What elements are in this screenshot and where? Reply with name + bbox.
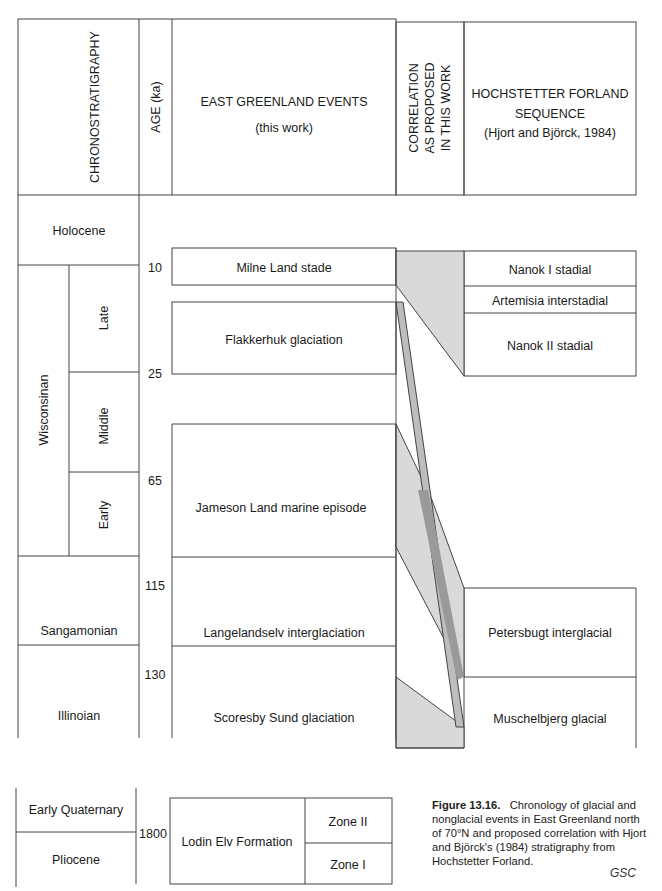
header-events-title: EAST GREENLAND EVENTS <box>200 95 367 109</box>
label-pliocene: Pliocene <box>52 853 100 867</box>
figure-caption: Figure 13.16. Chronology of glacial and … <box>432 798 648 868</box>
hochstetter-nanok1: Nanok I stadial <box>509 263 592 277</box>
label-middle: Middle <box>97 408 111 445</box>
hochstetter-artemisia: Artemisia interstadial <box>492 294 608 308</box>
event-flakkerhuk: Flakkerhuk glaciation <box>225 333 342 347</box>
hochstetter-petersbugt: Petersbugt interglacial <box>488 626 612 640</box>
header-chronostratigraphy: CHRONOSTRATIGRAPHY <box>88 30 102 183</box>
correlation-shading <box>396 251 464 748</box>
label-wisconsinan: Wisconsinan <box>37 375 51 446</box>
header-age: AGE (ka) <box>149 81 163 132</box>
credit-gsc: GSC <box>610 866 636 880</box>
header-events-subtitle: (this work) <box>255 121 313 135</box>
label-illinoian: Illinoian <box>58 709 100 723</box>
age-1800: 1800 <box>139 827 167 841</box>
age-65: 65 <box>148 474 162 488</box>
header-hochstetter-3: (Hjort and Björck, 1984) <box>484 126 616 140</box>
age-10: 10 <box>148 261 162 275</box>
event-jameson: Jameson Land marine episode <box>196 501 367 515</box>
event-zone2: Zone II <box>329 815 368 829</box>
header-correlation-3: IN THIS WORK <box>439 64 453 151</box>
age-130: 130 <box>145 668 166 682</box>
header-correlation-2: AS PROPOSED <box>423 63 437 154</box>
event-milne: Milne Land stade <box>236 261 331 275</box>
chronology-diagram: CHRONOSTRATIGRAPHY AGE (ka) EAST GREENLA… <box>0 0 662 891</box>
event-langelandselv: Langelandselv interglaciation <box>203 626 364 640</box>
label-late: Late <box>97 306 111 330</box>
caption-label: Figure 13.16. <box>432 799 500 811</box>
hochstetter-nanok2: Nanok II stadial <box>507 339 593 353</box>
header-correlation-1: CORRELATION <box>407 63 421 152</box>
header-hochstetter-1: HOCHSTETTER FORLAND <box>472 87 629 101</box>
label-sangamonian: Sangamonian <box>40 624 117 638</box>
hochstetter-muschelbjerg: Muschelbjerg glacial <box>493 712 606 726</box>
label-early: Early <box>97 500 111 529</box>
age-115: 115 <box>145 579 165 593</box>
label-holocene: Holocene <box>53 224 106 238</box>
label-early-quaternary: Early Quaternary <box>29 803 124 817</box>
age-25: 25 <box>148 367 162 381</box>
event-zone1: Zone I <box>330 858 365 872</box>
event-lodin: Lodin Elv Formation <box>181 835 292 849</box>
event-scoresby: Scoresby Sund glaciation <box>213 711 354 725</box>
header-hochstetter-2: SEQUENCE <box>515 107 585 121</box>
